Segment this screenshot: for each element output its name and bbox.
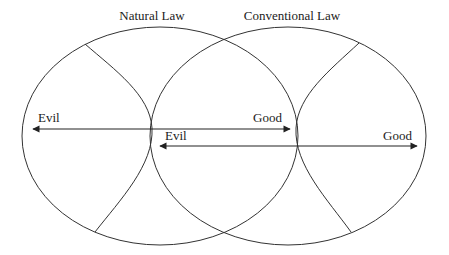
natural-law-circle xyxy=(22,27,298,245)
natural-law-divider-curve xyxy=(85,44,152,232)
natural-law-title: Natural Law xyxy=(119,8,185,23)
venn-diagram: Natural Law Conventional Law Evil Good E… xyxy=(0,0,449,255)
conventional-law-title: Conventional Law xyxy=(244,8,341,23)
natural-evil-label: Evil xyxy=(38,110,60,125)
conventional-good-label: Good xyxy=(383,128,412,143)
conventional-evil-label: Evil xyxy=(165,128,187,143)
natural-good-label: Good xyxy=(253,110,282,125)
conventional-law-divider-curve xyxy=(296,43,359,232)
